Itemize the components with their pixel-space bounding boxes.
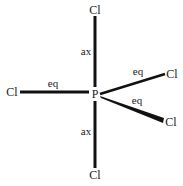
atom-axial-top: Cl [89,3,101,17]
label-equatorial-left: eq [48,77,59,89]
atom-equatorial-lower-right: Cl [165,115,177,129]
atom-equatorial-upper-right: Cl [166,67,178,81]
molecule-svg: Cl P Cl Cl Cl Cl ax ax eq eq eq [0,0,183,186]
label-axial-top: ax [81,45,92,57]
label-axial-bottom: ax [81,125,92,137]
atom-equatorial-left: Cl [6,85,18,99]
label-equatorial-upper-right: eq [133,65,144,77]
atom-axial-bottom: Cl [89,168,101,182]
label-equatorial-lower-right: eq [132,94,143,106]
pcl5-trigonal-bipyramid-diagram: Cl P Cl Cl Cl Cl ax ax eq eq eq [0,0,183,186]
atom-center: P [92,87,99,101]
bond-equatorial-upper-right [100,74,165,94]
